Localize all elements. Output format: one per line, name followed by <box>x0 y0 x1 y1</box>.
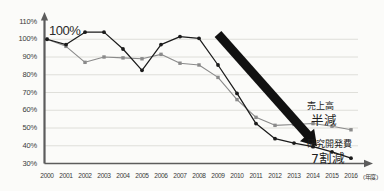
y-axis-tick-label: 100% <box>11 34 37 43</box>
data-point-sales <box>235 98 238 101</box>
x-axis-tick-label: 2002 <box>75 172 95 179</box>
data-point-sales <box>178 62 181 65</box>
x-axis-tick-label: 2012 <box>265 172 285 179</box>
data-point-sales <box>121 56 124 59</box>
x-axis-tick-label: 2009 <box>208 172 228 179</box>
data-point-rd <box>140 68 144 72</box>
x-axis-tick-label: 2005 <box>132 172 152 179</box>
decline-arrow-group <box>218 34 317 146</box>
y-axis-tick-label: 40% <box>11 141 37 150</box>
data-point-rd <box>102 30 106 34</box>
x-axis-tick-label: 2014 <box>303 172 323 179</box>
baseline-100-label: 100% <box>49 23 80 38</box>
x-axis-tick-label: 2001 <box>56 172 76 179</box>
x-axis-tick-label: 2013 <box>284 172 304 179</box>
x-axis-arrowhead <box>364 160 373 168</box>
data-point-sales <box>254 116 257 119</box>
y-axis-tick-label: 50% <box>11 123 37 132</box>
data-point-sales <box>197 63 200 66</box>
data-point-sales <box>349 128 352 131</box>
data-point-rd <box>159 43 163 47</box>
x-axis-tick-label: 2006 <box>151 172 171 179</box>
data-point-rd <box>178 35 182 39</box>
data-point-sales <box>83 61 86 64</box>
data-point-rd <box>64 43 68 47</box>
chart-container: 30%40%50%60%70%80%90%100%110% 2000200120… <box>0 0 384 191</box>
data-point-rd <box>197 36 201 40</box>
data-point-sales <box>273 124 276 127</box>
sales-change-label: 半減 <box>311 110 337 129</box>
y-axis-tick-label: 60% <box>11 105 37 114</box>
x-axis-tick-label: 2015 <box>322 172 342 179</box>
x-axis-tick-label: 2007 <box>170 172 190 179</box>
data-point-sales <box>159 53 162 56</box>
y-axis-arrowhead <box>41 12 48 21</box>
data-point-rd <box>254 122 258 126</box>
y-axis-tick-label: 70% <box>11 88 37 97</box>
x-axis-tick-label: 2000 <box>37 172 57 179</box>
y-axis-tick-label: 110% <box>11 17 37 26</box>
y-axis-tick-label: 80% <box>11 70 37 79</box>
y-axis-tick-label: 30% <box>11 159 37 168</box>
data-point-rd <box>273 137 277 141</box>
x-axis-unit-label: (年度) <box>363 172 378 181</box>
data-point-rd <box>292 141 296 145</box>
data-point-rd <box>235 91 239 95</box>
data-point-sales <box>140 57 143 60</box>
data-point-rd <box>83 30 87 34</box>
x-axis-tick-label: 2008 <box>189 172 209 179</box>
data-point-rd <box>216 63 220 67</box>
x-axis-tick-label: 2011 <box>246 172 266 179</box>
x-axis-tick-label: 2016 <box>341 172 361 179</box>
data-point-rd <box>349 156 353 160</box>
x-axis-tick-label: 2003 <box>94 172 114 179</box>
series-line-sales <box>47 39 351 130</box>
rd-change-label: 7割減 <box>311 148 345 167</box>
x-axis-tick-label: 2010 <box>227 172 247 179</box>
y-axis-tick-label: 90% <box>11 52 37 61</box>
data-point-rd <box>121 47 125 51</box>
data-point-rd <box>45 37 49 41</box>
x-axis-tick-label: 2004 <box>113 172 133 179</box>
data-point-sales <box>102 55 105 58</box>
data-point-sales <box>216 76 219 79</box>
